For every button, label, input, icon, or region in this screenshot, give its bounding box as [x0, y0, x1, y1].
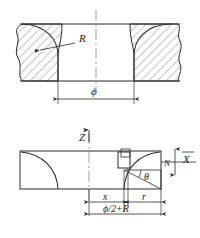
left-section-body [16, 24, 62, 81]
z-axis-label: Z [79, 131, 86, 143]
radius-label: R [78, 32, 86, 44]
tool-insert-square [118, 152, 130, 168]
theta-label: θ [144, 171, 149, 182]
left-profile-arc [21, 152, 58, 189]
cross-section-view [16, 10, 181, 104]
x-axis-label: X [182, 153, 191, 165]
right-section-body [130, 24, 181, 81]
engineering-drawing-svg: R ϕ [0, 0, 200, 238]
diameter-label: ϕ [91, 85, 97, 97]
normal-label: N [163, 158, 171, 168]
dim-total-label: ϕ/2+R [103, 203, 129, 214]
technical-drawing-canvas: R ϕ [0, 0, 200, 238]
dim-r-label: r [142, 191, 146, 202]
dim-x-label: x [102, 191, 108, 202]
theta-hypotenuse [124, 170, 161, 189]
theta-angle-arc [139, 170, 141, 177]
